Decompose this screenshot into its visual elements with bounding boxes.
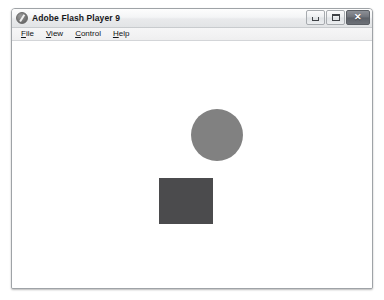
close-icon: ✕ — [354, 13, 362, 22]
window-title: Adobe Flash Player 9 — [32, 14, 120, 23]
maximize-icon — [332, 14, 340, 21]
window-controls: ✕ — [306, 10, 370, 25]
menu-label-help: elp — [119, 29, 130, 38]
menu-label-control: ontrol — [81, 29, 101, 38]
flash-player-window: Adobe Flash Player 9 ✕ File View Control… — [11, 8, 373, 289]
menu-label-view: iew — [51, 29, 63, 38]
flash-stage[interactable] — [12, 41, 372, 288]
flash-player-icon — [16, 12, 28, 24]
close-button[interactable]: ✕ — [346, 10, 370, 25]
menu-label-file: ile — [26, 29, 34, 38]
stage-shape-square[interactable] — [159, 178, 213, 224]
menubar: File View Control Help — [12, 28, 372, 41]
menu-item-help[interactable]: Help — [107, 30, 135, 38]
stage-shape-circle[interactable] — [191, 109, 243, 161]
window-titlebar[interactable]: Adobe Flash Player 9 ✕ — [12, 9, 372, 28]
minimize-icon — [312, 17, 319, 21]
menu-item-file[interactable]: File — [15, 30, 40, 38]
menu-item-control[interactable]: Control — [69, 30, 107, 38]
minimize-button[interactable] — [306, 10, 325, 25]
desktop-background: Adobe Flash Player 9 ✕ File View Control… — [0, 0, 384, 300]
menu-item-view[interactable]: View — [40, 30, 69, 38]
maximize-button[interactable] — [326, 10, 345, 25]
